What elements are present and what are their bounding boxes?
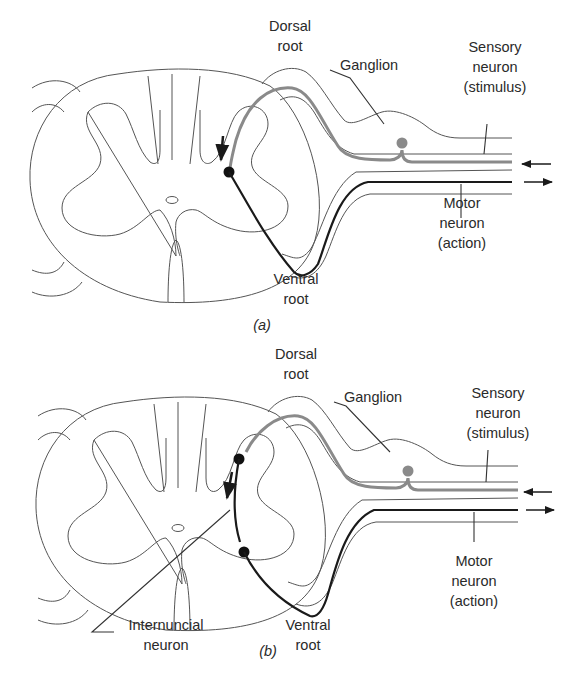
svg-text:(stimulus): (stimulus) xyxy=(467,425,530,441)
motor-neuron-label: Motor neuron (action) xyxy=(438,195,486,251)
panel-b-caption: (b) xyxy=(259,643,277,659)
svg-text:neuron: neuron xyxy=(439,215,484,231)
svg-text:Motor: Motor xyxy=(443,195,480,211)
sensory-neuron xyxy=(230,88,512,170)
svg-text:Dorsal: Dorsal xyxy=(275,346,317,362)
panel-b: Dorsal root Ganglion Sensory neuron (sti… xyxy=(36,346,554,659)
sensory-neuron-label: Sensory neuron (stimulus) xyxy=(467,385,530,441)
signal-direction-arrow xyxy=(221,136,223,160)
spinal-cord-cross-section xyxy=(36,397,326,631)
panel-a-caption: (a) xyxy=(253,317,271,333)
svg-text:neuron: neuron xyxy=(472,59,517,75)
svg-text:(action): (action) xyxy=(438,235,486,251)
motor-neuron-label: Motor neuron (action) xyxy=(450,553,498,609)
ventral-root-label: Ventral root xyxy=(273,271,318,307)
internuncial-neuron-label: Internuncial neuron xyxy=(129,617,204,653)
svg-text:(stimulus): (stimulus) xyxy=(464,79,527,95)
svg-text:Motor: Motor xyxy=(455,553,492,569)
svg-text:neuron: neuron xyxy=(475,405,520,421)
svg-text:neuron: neuron xyxy=(143,637,188,653)
svg-text:(action): (action) xyxy=(450,593,498,609)
ganglion-label: Ganglion xyxy=(340,57,398,73)
svg-text:neuron: neuron xyxy=(451,573,496,589)
spinal-cord-cross-section xyxy=(30,69,320,303)
sensory-leader xyxy=(484,124,487,154)
svg-text:root: root xyxy=(278,38,303,54)
svg-text:Dorsal: Dorsal xyxy=(269,18,311,34)
dorsal-root-label: Dorsal root xyxy=(275,346,317,382)
svg-text:Ventral: Ventral xyxy=(285,617,330,633)
internuncial-neuron xyxy=(234,454,245,543)
panel-a: Dorsal root Ganglion Sensory neuron (sti… xyxy=(30,18,552,333)
ganglion-leader xyxy=(334,402,390,452)
svg-text:Internuncial: Internuncial xyxy=(129,617,204,633)
ganglion-leader xyxy=(330,70,384,124)
svg-text:root: root xyxy=(284,291,309,307)
dorsal-root-label: Dorsal root xyxy=(269,18,311,54)
svg-text:Sensory: Sensory xyxy=(471,385,525,401)
svg-text:Ventral: Ventral xyxy=(273,271,318,287)
svg-text:root: root xyxy=(296,637,321,653)
svg-text:root: root xyxy=(284,366,309,382)
ganglion-label: Ganglion xyxy=(344,389,402,405)
reflex-arc-figure: Dorsal root Ganglion Sensory neuron (sti… xyxy=(0,0,583,687)
ganglion-cell-body xyxy=(403,466,414,477)
internuncial-leader xyxy=(92,510,230,632)
ganglion-cell-body xyxy=(397,138,408,149)
sensory-neuron-label: Sensory neuron (stimulus) xyxy=(464,39,527,95)
svg-text:Sensory: Sensory xyxy=(468,39,522,55)
ventral-root-label: Ventral root xyxy=(285,617,330,653)
